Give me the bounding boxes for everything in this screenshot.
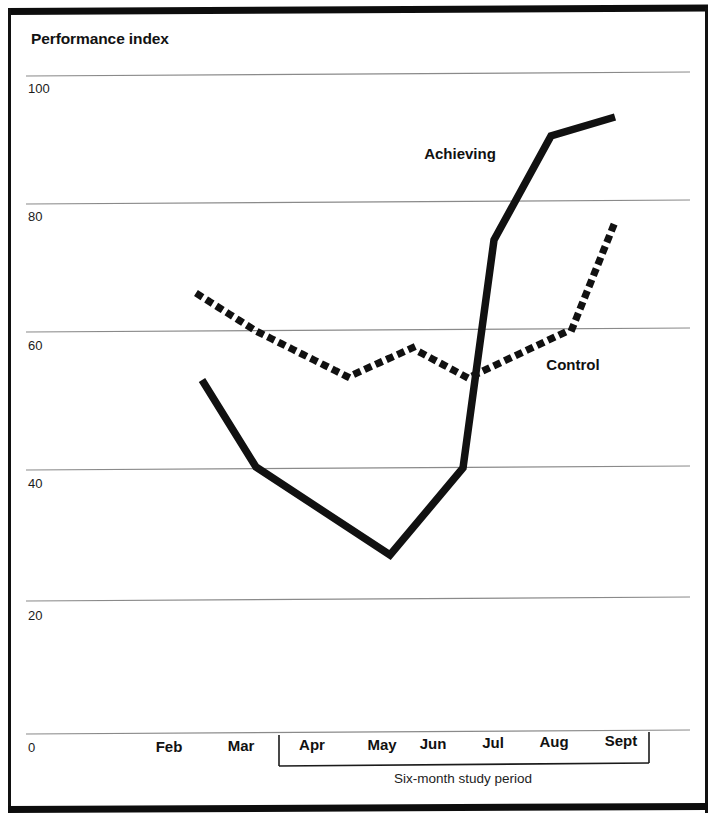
x-axis-tick-mar: Mar — [228, 737, 255, 754]
y-axis-tick-100: 100 — [28, 81, 50, 96]
gridline-40 — [26, 466, 690, 470]
study-period-label: Six-month study period — [394, 771, 532, 786]
series-label-control: Control — [546, 356, 599, 373]
x-axis-tick-may: May — [367, 736, 396, 753]
gridline-60 — [26, 328, 690, 332]
x-axis-tick-feb: Feb — [156, 738, 183, 755]
gridline-80 — [26, 200, 690, 204]
line-chart-plot — [0, 0, 716, 821]
x-axis-tick-aug: Aug — [539, 733, 568, 750]
y-axis-tick-0: 0 — [28, 740, 35, 755]
y-axis-tick-80: 80 — [28, 209, 42, 224]
y-axis-tick-60: 60 — [28, 338, 42, 353]
x-axis-tick-jul: Jul — [482, 734, 504, 751]
series-line-control — [199, 222, 615, 378]
x-axis-tick-sept: Sept — [605, 732, 638, 749]
gridline-0 — [26, 730, 690, 734]
y-axis-tick-40: 40 — [28, 476, 42, 491]
gridline-20 — [26, 597, 690, 601]
chart-page: Performance index 100 80 60 40 20 0 Feb … — [0, 0, 716, 821]
y-axis-tick-20: 20 — [28, 608, 42, 623]
gridlines — [26, 72, 690, 734]
x-axis-tick-jun: Jun — [420, 735, 447, 752]
x-axis-tick-apr: Apr — [299, 736, 325, 753]
series-label-achieving: Achieving — [424, 145, 496, 162]
study-period-bracket — [279, 732, 649, 766]
gridline-100 — [26, 72, 690, 76]
